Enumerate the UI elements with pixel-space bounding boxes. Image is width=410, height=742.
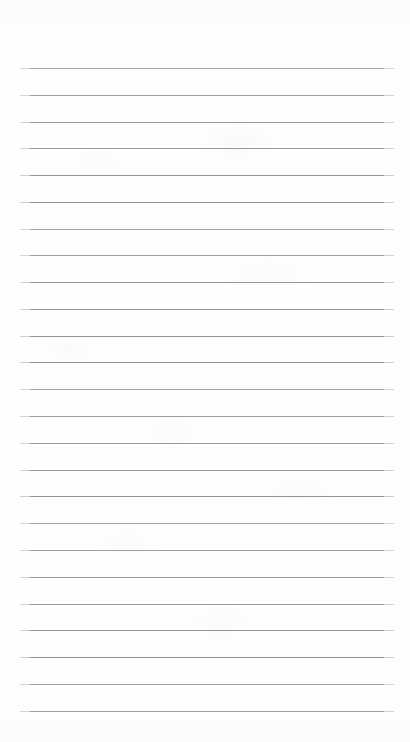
ruled-line	[20, 148, 394, 149]
ruled-lines-group	[0, 0, 410, 742]
ruled-line	[20, 389, 394, 390]
ruled-line	[20, 711, 394, 712]
ruled-line	[20, 577, 394, 578]
ruled-line	[20, 282, 394, 283]
ruled-line	[20, 416, 394, 417]
ruled-line	[20, 202, 394, 203]
ruled-line	[20, 630, 394, 631]
ruled-line	[20, 122, 394, 123]
lined-paper-page	[0, 0, 410, 742]
ruled-line	[20, 470, 394, 471]
ruled-line	[20, 496, 394, 497]
ruled-line	[20, 255, 394, 256]
ruled-line	[20, 443, 394, 444]
ruled-line	[20, 523, 394, 524]
ruled-line	[20, 229, 394, 230]
ruled-line	[20, 336, 394, 337]
ruled-line	[20, 309, 394, 310]
ruled-line	[20, 362, 394, 363]
ruled-line	[20, 68, 394, 69]
ruled-line	[20, 657, 394, 658]
ruled-line	[20, 95, 394, 96]
ruled-line	[20, 550, 394, 551]
ruled-line	[20, 175, 394, 176]
ruled-line	[20, 604, 394, 605]
ruled-line	[20, 684, 394, 685]
